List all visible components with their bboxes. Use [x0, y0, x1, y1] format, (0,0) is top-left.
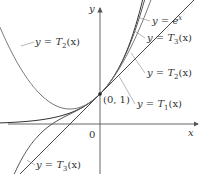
- curve-label: y = T2(x): [146, 67, 192, 81]
- origin-label: 0: [89, 129, 95, 140]
- point-label: (0, 1): [103, 94, 130, 105]
- curve-label: y = T2(x): [34, 36, 80, 50]
- taylor-polynomial-chart: x y 0 (0, 1) y = exy = T3(x)y = T2(x)y =…: [0, 0, 202, 174]
- x-axis-label: x: [188, 127, 194, 138]
- curves: [0, 0, 202, 174]
- curve-label: y = ex: [151, 14, 182, 26]
- curve-t1: [0, 0, 202, 174]
- tangent-point: [98, 92, 102, 96]
- curve-label: y = T3(x): [146, 32, 192, 46]
- curve-label: y = T3(x): [35, 159, 81, 173]
- curve-t2: [0, 0, 157, 109]
- curve-t3: [5, 0, 149, 174]
- y-axis-label: y: [88, 3, 95, 14]
- curve-label: y = T1(x): [136, 98, 182, 112]
